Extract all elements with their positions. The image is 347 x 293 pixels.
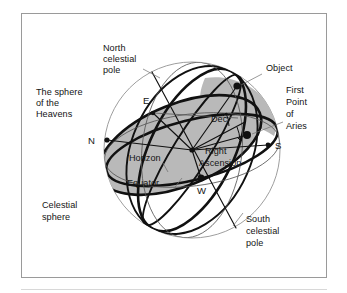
leader-south-celestial-pole [233, 213, 243, 226]
node-dot-north [104, 137, 109, 142]
label-celestial-sphere-line1: Celestial [42, 200, 77, 210]
label-right-ascension-line2: Ascension [199, 158, 241, 168]
label-south-celestial-pole-line3: pole [246, 238, 263, 248]
label-south-celestial-pole-line1: South [246, 214, 270, 224]
node-dot-west [198, 175, 205, 182]
label-north-celestial-pole-line3: pole [103, 65, 120, 75]
node-dot-object [233, 82, 240, 89]
label-right-ascension-line1: Right [205, 146, 227, 156]
label-south-celestial-pole-line2: celestial [246, 226, 279, 236]
celestial-sphere-diagram: North celestial pole The sphere of the H… [0, 0, 347, 293]
label-first-point-of-aries-line4: Aries [286, 121, 307, 131]
label-object: Object [266, 63, 293, 73]
label-cardinal-west: W [197, 185, 207, 196]
label-horizon: Horizon [129, 153, 161, 163]
label-equator: Equator [127, 178, 159, 188]
label-cardinal-east: E [143, 95, 149, 106]
label-north-celestial-pole-line2: celestial [103, 54, 136, 64]
figure-root: North celestial pole The sphere of the H… [0, 0, 347, 293]
label-cardinal-north: N [88, 135, 95, 146]
label-dec: Dec [211, 114, 228, 124]
label-sphere-of-heavens-line2: of the [36, 98, 59, 108]
label-first-point-of-aries-line2: Point [286, 97, 307, 107]
node-dot-aries [243, 131, 251, 139]
label-sphere-of-heavens-line3: Heavens [36, 109, 73, 119]
node-dot-east [151, 111, 155, 115]
label-cardinal-south: S [275, 140, 281, 151]
node-dot-south [266, 143, 271, 148]
label-celestial-sphere-line2: sphere [42, 212, 70, 222]
node-dot-observer-centre [189, 147, 194, 152]
label-first-point-of-aries-line1: First [286, 85, 304, 95]
label-sphere-of-heavens-line1: The sphere [36, 87, 83, 97]
label-north-celestial-pole-line1: North [103, 43, 126, 53]
label-first-point-of-aries-line3: of [286, 109, 294, 119]
leader-north-celestial-pole [143, 69, 160, 78]
